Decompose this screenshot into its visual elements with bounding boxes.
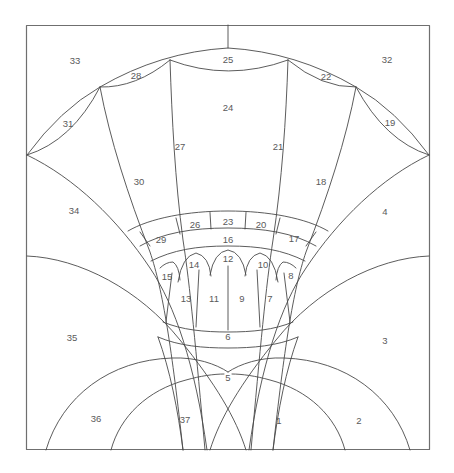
region-label-8: 8 [288,270,293,281]
region-label-33: 33 [70,55,81,66]
region-label-12: 12 [223,253,234,264]
region-label-18: 18 [316,176,327,187]
region-label-14: 14 [189,259,200,270]
region-label-4: 4 [382,206,387,217]
vault-drawing-canvas: 1234567891011121314151617181920212223242… [0,0,454,473]
region-label-9: 9 [239,293,244,304]
region-label-25: 25 [223,54,234,65]
rib-right-outer [273,87,356,450]
region-label-19: 19 [385,117,396,128]
tail-rib-right [273,337,298,450]
region-label-10: 10 [258,259,269,270]
region-label-16: 16 [223,234,234,245]
region-label-7: 7 [267,293,272,304]
region-label-28: 28 [131,70,142,81]
region-label-32: 32 [382,54,393,65]
annulus-divider-17-right-end [306,232,316,246]
region-label-34: 34 [69,205,80,216]
annulus-divider-29-left-end [140,232,150,246]
annulus-divider-29-26 [176,218,180,234]
lower-arc-37-inner [111,374,224,450]
region-label-3: 3 [382,335,387,346]
annulus-divider-26-23 [210,213,211,230]
fan-edge-right [249,155,429,450]
annulus-divider-20-17 [276,218,280,234]
rib-left-inner [170,60,205,450]
mullion-9-7 [257,270,260,327]
region-label-29: 29 [156,234,167,245]
region-label-30: 30 [134,176,145,187]
region-label-21: 21 [273,141,284,152]
region-label-31: 31 [63,118,74,129]
region-label-2: 2 [356,415,361,426]
region-label-5: 5 [225,372,230,383]
region-label-27: 27 [175,141,186,152]
region-label-17: 17 [289,233,300,244]
lower-arc-3-2 [210,256,429,450]
rib-left-outer [100,87,183,450]
region-label-13: 13 [181,293,192,304]
region-label-24: 24 [223,102,234,113]
region-labels-layer: 1234567891011121314151617181920212223242… [63,54,396,426]
lower-arc-35-36 [27,256,246,450]
region-label-36: 36 [91,413,102,424]
region-label-15: 15 [162,271,173,282]
region-label-1: 1 [276,415,281,426]
region-label-20: 20 [256,219,267,230]
region-label-6: 6 [225,331,230,342]
region-label-26: 26 [190,219,201,230]
tail-rib-left [158,337,183,450]
fan-vault-diagram: 1234567891011121314151617181920212223242… [0,0,454,473]
lower-arc-1-inner [232,374,345,450]
region-label-37: 37 [180,414,191,425]
region-label-11: 11 [209,293,219,304]
mullion-13-11 [196,270,199,327]
annulus-divider-23-20 [245,213,246,230]
region-label-22: 22 [321,71,332,82]
region-label-23: 23 [223,216,234,227]
region-label-35: 35 [67,332,78,343]
